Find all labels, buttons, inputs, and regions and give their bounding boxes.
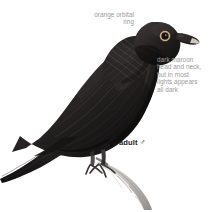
- eye: [162, 33, 168, 39]
- bird-illustration: [0, 0, 214, 212]
- label-age-sex: adult♂: [119, 137, 146, 147]
- eye-highlight: [165, 34, 167, 36]
- annotation-orange-orbital-ring: orange orbital ring: [58, 11, 134, 26]
- annotation-dark-maroon-head-and-neck: dark maroon head and neck, but in most l…: [157, 56, 214, 93]
- leg-far: [90, 151, 95, 166]
- field-guide-plate: orange orbital ring dark maroon head and…: [0, 0, 214, 212]
- label-age-text: adult: [119, 138, 138, 147]
- branch: [96, 161, 152, 210]
- male-sex-symbol-icon: ♂: [138, 137, 146, 147]
